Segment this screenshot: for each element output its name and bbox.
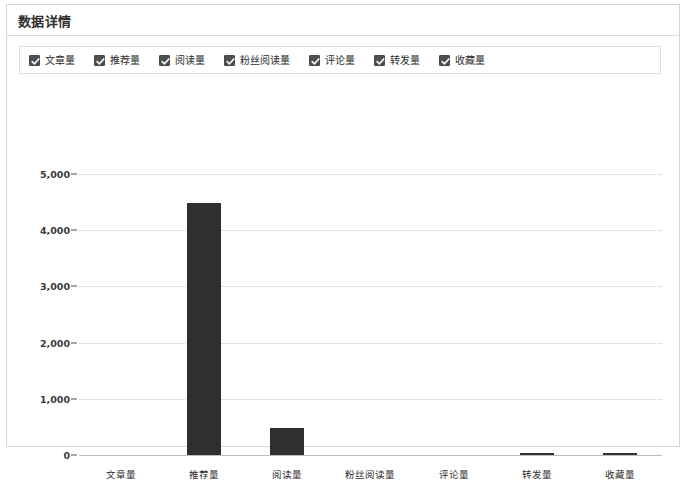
y-axis-tick-label: 3,000 (40, 281, 70, 292)
x-axis-tick-label: 粉丝阅读量 (345, 467, 395, 481)
legend-item-6[interactable]: 收藏量 (439, 55, 485, 66)
y-axis-tick-mark (71, 230, 77, 231)
bar[interactable] (520, 453, 554, 455)
y-axis-tick-label: 1,000 (40, 393, 70, 404)
legend-item-0[interactable]: 文章量 (29, 55, 75, 66)
legend-item-label: 转发量 (390, 55, 420, 66)
page-title: 数据详情 (18, 11, 71, 30)
y-axis-tick-label: 0 (63, 450, 70, 461)
gridline-0 (79, 455, 662, 456)
legend-item-label: 推荐量 (110, 55, 140, 66)
legend-item-label: 文章量 (45, 55, 75, 66)
y-axis-tick-mark (71, 342, 77, 343)
checkbox-checked-icon[interactable] (374, 55, 385, 66)
x-axis-tick-label: 转发量 (522, 467, 552, 481)
checkbox-checked-icon[interactable] (159, 55, 170, 66)
y-axis-tick-label: 2,000 (40, 337, 70, 348)
checkbox-checked-icon[interactable] (309, 55, 320, 66)
checkbox-checked-icon[interactable] (224, 55, 235, 66)
x-axis-tick-label: 收藏量 (605, 467, 635, 481)
checkbox-checked-icon[interactable] (439, 55, 450, 66)
y-axis-tick-label: 5,000 (40, 169, 70, 180)
legend-checkbox-group: 文章量推荐量阅读量粉丝阅读量评论量转发量收藏量 (19, 46, 661, 74)
bar-slot-4: 评论量 (412, 174, 495, 455)
legend-item-label: 粉丝阅读量 (240, 55, 290, 66)
legend-item-1[interactable]: 推荐量 (94, 55, 140, 66)
plot-area: 01,0002,0003,0004,0005,000 文章量推荐量阅读量粉丝阅读… (79, 174, 662, 455)
x-axis-tick-label: 阅读量 (272, 467, 302, 481)
legend-item-label: 收藏量 (455, 55, 485, 66)
checkbox-checked-icon[interactable] (94, 55, 105, 66)
legend-item-label: 阅读量 (175, 55, 205, 66)
legend-item-2[interactable]: 阅读量 (159, 55, 205, 66)
y-axis-tick-mark (71, 398, 77, 399)
legend-item-label: 评论量 (325, 55, 355, 66)
panel-header: 数据详情 (7, 5, 679, 36)
panel-body: 文章量推荐量阅读量粉丝阅读量评论量转发量收藏量 01,0002,0003,000… (7, 36, 679, 446)
bar-layer: 文章量推荐量阅读量粉丝阅读量评论量转发量收藏量 (79, 174, 662, 455)
bar-chart: 01,0002,0003,0004,0005,000 文章量推荐量阅读量粉丝阅读… (7, 80, 679, 445)
y-axis-tick-mark (71, 174, 77, 175)
bar[interactable] (270, 428, 304, 455)
data-detail-panel: 数据详情 文章量推荐量阅读量粉丝阅读量评论量转发量收藏量 01,0002,000… (6, 4, 680, 447)
bar-slot-1: 推荐量 (162, 174, 245, 455)
y-axis-tick-mark (71, 455, 77, 456)
y-axis-tick-mark (71, 286, 77, 287)
x-axis-tick-label: 评论量 (439, 467, 469, 481)
bar[interactable] (603, 453, 637, 455)
bar-slot-3: 粉丝阅读量 (329, 174, 412, 455)
bar-slot-2: 阅读量 (246, 174, 329, 455)
bar-slot-5: 转发量 (495, 174, 578, 455)
y-axis-tick-label: 4,000 (40, 225, 70, 236)
checkbox-checked-icon[interactable] (29, 55, 40, 66)
bar-slot-0: 文章量 (79, 174, 162, 455)
x-axis-tick-label: 推荐量 (189, 467, 219, 481)
legend-item-5[interactable]: 转发量 (374, 55, 420, 66)
legend-item-3[interactable]: 粉丝阅读量 (224, 55, 290, 66)
bar-slot-6: 收藏量 (579, 174, 662, 455)
x-axis-tick-label: 文章量 (106, 467, 136, 481)
legend-item-4[interactable]: 评论量 (309, 55, 355, 66)
bar[interactable] (187, 203, 221, 455)
